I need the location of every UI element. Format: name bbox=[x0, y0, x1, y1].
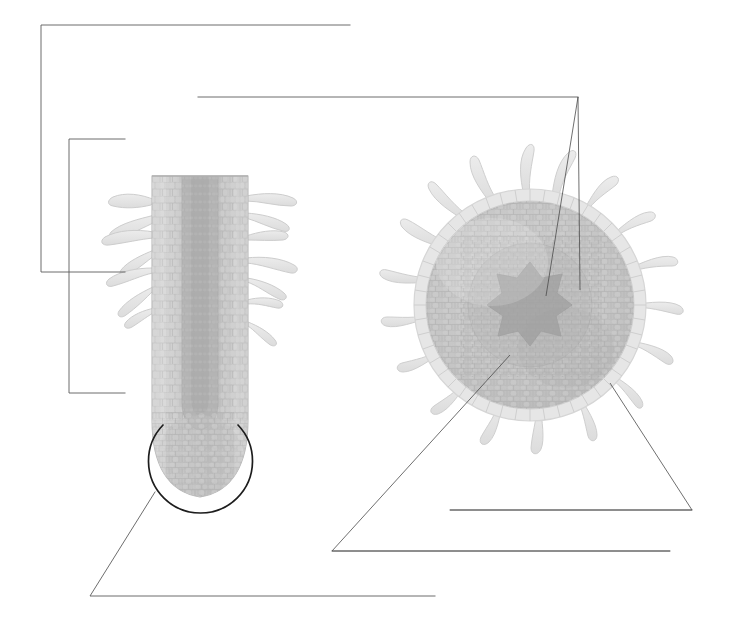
label-line-top-outer[interactable] bbox=[41, 25, 350, 272]
label-line-top-inner[interactable] bbox=[69, 139, 125, 393]
label-lines bbox=[0, 0, 735, 625]
label-line-cortex[interactable] bbox=[332, 355, 670, 551]
root-tip-highlight-circle bbox=[149, 425, 253, 513]
label-line-vascular-cylinder[interactable] bbox=[546, 97, 578, 296]
diagram-canvas bbox=[0, 0, 735, 625]
label-line-root-tip[interactable] bbox=[90, 492, 435, 596]
label-line-epidermis-cross[interactable] bbox=[450, 383, 692, 510]
label-line-phloem[interactable] bbox=[578, 97, 580, 290]
